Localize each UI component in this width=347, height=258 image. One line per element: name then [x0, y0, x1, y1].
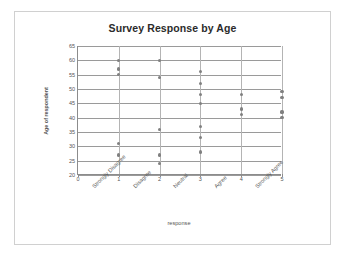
scatter-point [158, 76, 161, 79]
scatter-point [158, 59, 161, 62]
y-axis-title-label: Age of respondent [43, 87, 49, 135]
scatter-point [280, 90, 283, 93]
x-axis-tick-label: 0 [76, 176, 79, 182]
y-axis-tick-label: 30 [69, 143, 75, 149]
scatter-point [199, 70, 202, 73]
y-axis-tick-label: 55 [69, 72, 75, 78]
x-axis-tick-label: 5 [280, 176, 283, 182]
x-axis-tick-label: 4 [240, 176, 243, 182]
plot-area: 20253035404550556065 012345 Strongly Dis… [77, 46, 281, 175]
y-axis-tick-label: 40 [69, 115, 75, 121]
scatter-point [117, 67, 120, 70]
scatter-point [240, 93, 243, 96]
scatter-point [158, 153, 161, 156]
x-axis-tick-label: 1 [117, 176, 120, 182]
category-label: Disagree [132, 169, 152, 189]
chart-title: Survey Response by Age [15, 22, 330, 34]
x-axis-tick-label: 3 [199, 176, 202, 182]
chart-frame: Survey Response by Age Age of respondent… [14, 11, 331, 245]
scatter-point [158, 162, 161, 165]
gridline [78, 60, 281, 61]
gridline [78, 146, 281, 147]
y-axis-tick-label: 60 [69, 57, 75, 63]
gridline [78, 132, 281, 133]
gridline [78, 89, 281, 90]
scatter-point [280, 110, 283, 113]
category-label: Strongly Disagree [91, 154, 127, 190]
scatter-point [158, 128, 161, 131]
scatter-point [280, 116, 283, 119]
scatter-point [117, 59, 120, 62]
y-axis-tick-label: 50 [69, 86, 75, 92]
scatter-point [199, 93, 202, 96]
scatter-point [240, 107, 243, 110]
gridline [78, 75, 281, 76]
x-axis-tick-label: 2 [158, 176, 161, 182]
scatter-point [199, 150, 202, 153]
scatter-point [117, 142, 120, 145]
scatter-point [240, 113, 243, 116]
gridline [78, 161, 281, 162]
scatter-point [280, 96, 283, 99]
gridline [78, 118, 281, 119]
category-label: Agree [213, 174, 228, 189]
gridline [78, 103, 281, 104]
scatter-point [199, 125, 202, 128]
x-axis-title: response [77, 220, 281, 226]
vertical-gridline [200, 46, 201, 174]
scatter-point [199, 82, 202, 85]
scatter-point [117, 73, 120, 76]
gridline [78, 46, 281, 47]
scatter-point [199, 136, 202, 139]
y-axis-tick-label: 25 [69, 158, 75, 164]
y-axis-tick-label: 45 [69, 100, 75, 106]
y-axis-tick-label: 20 [69, 172, 75, 178]
y-axis-tick-label: 35 [69, 129, 75, 135]
y-axis-title: Age of respondent [41, 46, 51, 175]
y-axis-tick-label: 65 [69, 43, 75, 49]
scatter-point [199, 102, 202, 105]
